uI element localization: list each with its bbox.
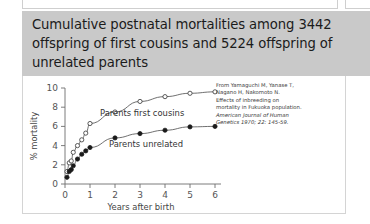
- series-label-first-cousins: Parents first cousins: [100, 108, 184, 118]
- x-tick-0: 0: [62, 190, 68, 200]
- x-tick-5: 5: [187, 190, 193, 200]
- data-point: [71, 150, 75, 154]
- top-chrome-strip: [0, 0, 370, 10]
- data-point: [80, 138, 84, 142]
- x-tick-2: 2: [112, 190, 118, 200]
- data-point: [138, 99, 142, 103]
- content-panel: 0 2 4 6 8 10 0 1: [22, 76, 346, 214]
- x-tick-3: 3: [137, 190, 143, 200]
- y-axis-title: % mortality: [29, 112, 39, 161]
- x-tick-4: 4: [162, 190, 168, 200]
- chrome-bar-left: [22, 0, 338, 9]
- y-tick-4: 4: [52, 141, 58, 151]
- data-point: [88, 145, 92, 149]
- x-tick-6: 6: [212, 190, 218, 200]
- source-citation: From Yamaguchi M, Yanase T, Nagano H, Na…: [216, 82, 338, 126]
- series-label-unrelated: Parents unrelated: [109, 139, 183, 149]
- data-point: [69, 159, 73, 163]
- x-tick-1: 1: [87, 190, 93, 200]
- y-tick-6: 6: [52, 121, 58, 131]
- title-band: Cumulative postnatal mortalities among 3…: [22, 11, 370, 76]
- y-tick-0: 0: [52, 179, 58, 189]
- citation-line-4: mortality in Fukuoka population.: [216, 104, 338, 111]
- data-point: [75, 144, 79, 148]
- data-point: [163, 95, 167, 99]
- data-point: [65, 175, 69, 179]
- data-point: [71, 164, 75, 168]
- chart-svg: 0 2 4 6 8 10 0 1: [23, 76, 233, 214]
- citation-line-2: Nagano H, Nakomoto N.: [216, 89, 338, 96]
- y-tick-10: 10: [47, 83, 59, 93]
- y-axis-ticks: 0 2 4 6 8 10: [47, 83, 65, 189]
- citation-line-3: Effects of inbreeding on: [216, 97, 338, 104]
- data-point: [84, 131, 88, 135]
- mortality-chart: 0 2 4 6 8 10 0 1: [23, 76, 233, 214]
- data-point: [188, 91, 192, 95]
- x-axis-ticks: 0 1 2 3 4 5 6: [62, 184, 218, 200]
- citation-line-1: From Yamaguchi M, Yanase T,: [216, 82, 338, 89]
- data-point: [80, 152, 84, 156]
- data-point: [75, 157, 79, 161]
- slide-container: Cumulative postnatal mortalities among 3…: [0, 0, 370, 224]
- y-tick-2: 2: [52, 160, 58, 170]
- data-point: [138, 132, 142, 136]
- chrome-bar-right: [345, 0, 370, 9]
- citation-line-5: American Journal of Human: [216, 112, 338, 119]
- data-point: [88, 121, 92, 125]
- y-tick-8: 8: [52, 102, 58, 112]
- page-title: Cumulative postnatal mortalities among 3…: [32, 15, 362, 72]
- data-point: [188, 125, 192, 129]
- citation-line-6: Genetics 1970; 22: 145-59.: [216, 119, 338, 126]
- x-axis-title: Years after birth: [107, 202, 175, 212]
- data-point: [163, 128, 167, 132]
- data-point: [84, 149, 88, 153]
- series-layer: [65, 90, 217, 180]
